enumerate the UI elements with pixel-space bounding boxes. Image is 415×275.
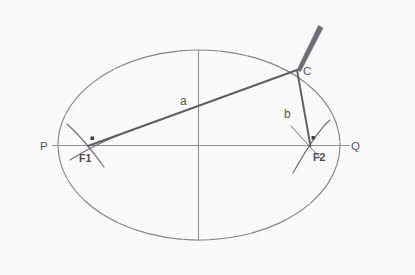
label-f1: F1 bbox=[79, 152, 91, 164]
label-p: P bbox=[40, 140, 48, 152]
segment-a-line bbox=[88, 70, 297, 146]
label-q: Q bbox=[351, 140, 360, 152]
focus1-dot-marker bbox=[91, 137, 95, 141]
diagram-canvas: P Q C F1 F2 a b bbox=[0, 0, 415, 275]
focus2-dot-marker bbox=[312, 136, 315, 139]
label-f2: F2 bbox=[313, 151, 325, 163]
label-a: a bbox=[180, 94, 187, 108]
label-b: b bbox=[284, 107, 291, 121]
ellipse-diagram: P Q C F1 F2 a b bbox=[0, 0, 415, 275]
focus-markers-group bbox=[91, 136, 315, 140]
label-c: C bbox=[303, 65, 311, 77]
focus2-arc-a bbox=[293, 120, 330, 173]
